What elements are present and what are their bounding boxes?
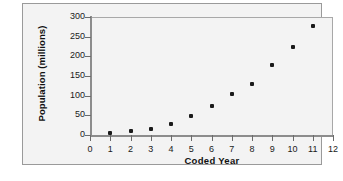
x-axis-title: Coded Year [90, 155, 334, 166]
y-tick-label: 0 [57, 130, 85, 140]
x-tick-label: 6 [202, 144, 222, 154]
data-point [210, 104, 214, 108]
x-tick-label: 5 [181, 144, 201, 154]
data-point [270, 63, 274, 67]
x-tick-label: 11 [303, 144, 323, 154]
x-tick-mark [212, 135, 213, 141]
y-tick-label-text: 300 [59, 12, 85, 21]
x-tick-mark [131, 135, 132, 141]
x-tick-mark [110, 135, 111, 141]
x-tick-mark [90, 135, 91, 141]
y-tick-label: 50 [57, 110, 85, 120]
x-tick-label: 7 [222, 144, 242, 154]
data-point [250, 82, 254, 86]
x-tick-label: 0 [80, 144, 100, 154]
data-point [189, 114, 193, 118]
data-point [311, 24, 315, 28]
y-tick-label-text: 200 [59, 51, 85, 60]
x-tick-mark [333, 135, 334, 141]
x-tick-mark [313, 135, 314, 141]
y-tick-mark [85, 76, 91, 77]
x-tick-mark [151, 135, 152, 141]
x-tick-mark [191, 135, 192, 141]
y-tick-label-text: 150 [59, 71, 85, 80]
x-tick-mark [171, 135, 172, 141]
chart-frame: 050100150200250300 0123456789101112 Code… [22, 3, 322, 165]
plot-area [90, 17, 333, 135]
y-tick-mark [85, 56, 91, 57]
y-tick-label: 100 [57, 91, 85, 101]
data-point [169, 122, 173, 126]
y-axis-title: Population (millions) [36, 19, 47, 129]
x-tick-label: 4 [161, 144, 181, 154]
x-tick-mark [272, 135, 273, 141]
y-tick-mark [85, 115, 91, 116]
x-tick-mark [293, 135, 294, 141]
data-point [291, 45, 295, 49]
x-tick-label: 10 [283, 144, 303, 154]
y-tick-label: 150 [57, 71, 85, 81]
y-tick-label-text: 0 [59, 130, 85, 139]
x-tick-label: 1 [100, 144, 120, 154]
y-tick-label-text: 100 [59, 91, 85, 100]
y-tick-label-text: 250 [59, 32, 85, 41]
x-tick-label: 9 [262, 144, 282, 154]
y-tick-label: 200 [57, 51, 85, 61]
x-tick-label: 2 [121, 144, 141, 154]
data-point [149, 127, 153, 131]
y-tick-label: 250 [57, 32, 85, 42]
y-tick-label-text: 50 [59, 110, 85, 119]
x-tick-mark [232, 135, 233, 141]
x-tick-label: 8 [242, 144, 262, 154]
y-tick-mark [85, 96, 91, 97]
y-tick-mark [85, 37, 91, 38]
x-tick-label: 12 [323, 144, 343, 154]
data-point [230, 92, 234, 96]
data-point [129, 129, 133, 133]
y-tick-label: 300 [57, 12, 85, 22]
x-tick-label: 3 [141, 144, 161, 154]
x-tick-mark [252, 135, 253, 141]
y-tick-mark [85, 17, 91, 18]
